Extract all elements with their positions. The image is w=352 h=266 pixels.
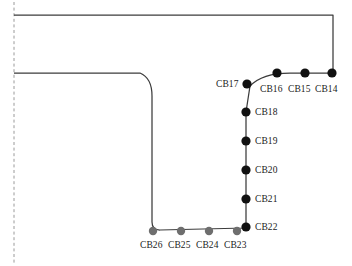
node-label-cb20: CB20 (255, 165, 278, 175)
node-marker-cb23[interactable] (233, 227, 241, 235)
node-marker-cb18[interactable] (241, 107, 250, 116)
schematic-canvas (0, 0, 352, 266)
node-marker-cb24[interactable] (205, 227, 213, 235)
node-label-cb21: CB21 (255, 194, 278, 204)
node-marker-cb15[interactable] (300, 68, 309, 77)
node-marker-cb21[interactable] (241, 194, 250, 203)
node-marker-cb19[interactable] (241, 136, 250, 145)
schematic-figure: CB14CB15CB16CB17CB18CB19CB20CB21CB22CB23… (0, 0, 352, 266)
node-label-cb16: CB16 (260, 84, 283, 94)
node-marker-cb17[interactable] (242, 79, 251, 88)
node-label-cb25: CB25 (168, 240, 191, 250)
node-marker-cb26[interactable] (149, 227, 157, 235)
node-label-cb15: CB15 (288, 84, 311, 94)
node-marker-cb20[interactable] (241, 165, 250, 174)
node-marker-cb25[interactable] (177, 227, 185, 235)
structure-outline-path (14, 15, 333, 230)
node-label-cb18: CB18 (255, 107, 278, 117)
node-marker-cb14[interactable] (327, 68, 336, 77)
node-label-cb22: CB22 (255, 222, 278, 232)
node-label-cb19: CB19 (255, 136, 278, 146)
node-label-cb23: CB23 (224, 240, 247, 250)
node-label-cb14: CB14 (315, 84, 338, 94)
node-marker-cb22[interactable] (241, 222, 250, 231)
node-label-cb26: CB26 (140, 240, 163, 250)
node-label-cb17: CB17 (216, 79, 239, 89)
node-marker-cb16[interactable] (272, 68, 281, 77)
node-label-cb24: CB24 (196, 240, 219, 250)
